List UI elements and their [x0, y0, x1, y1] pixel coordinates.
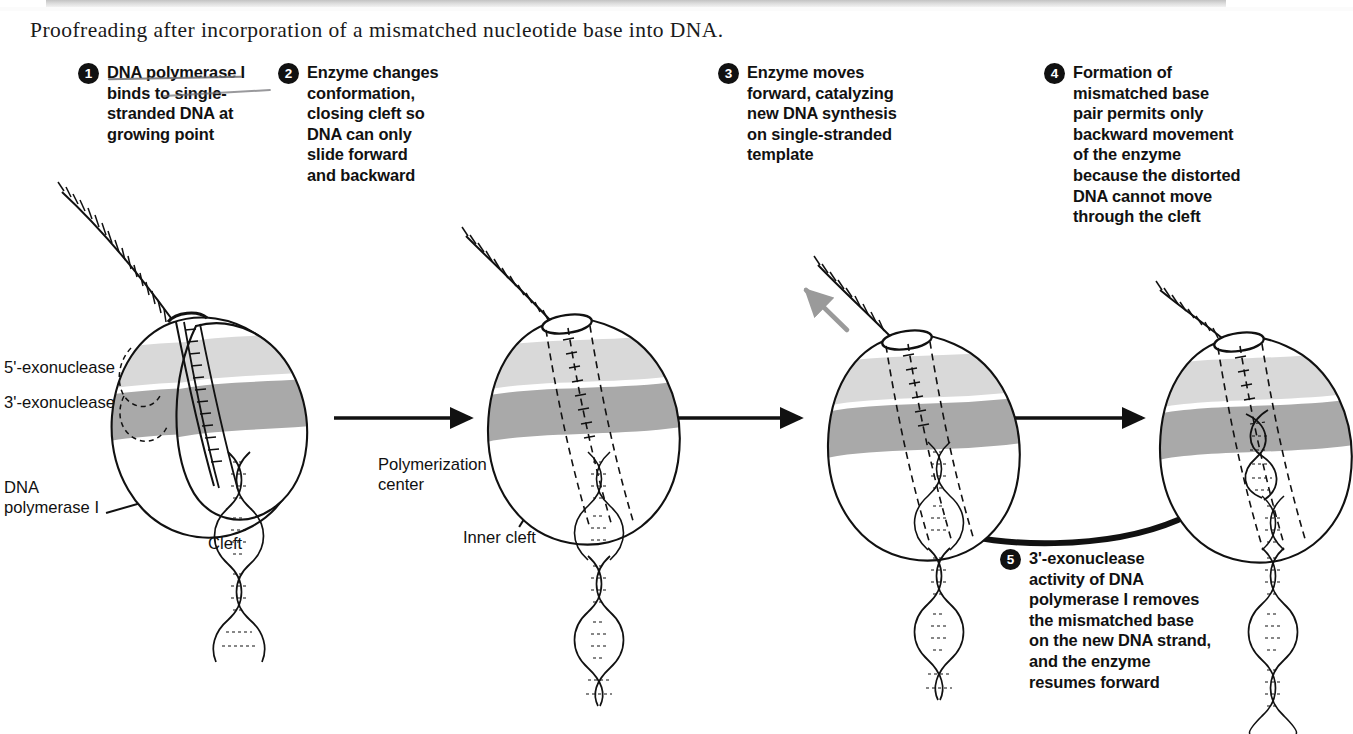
enzyme-bands-4 — [1150, 328, 1353, 578]
single-stranded-dna-3 — [814, 256, 890, 336]
movement-arrow-forward-gray — [806, 290, 847, 330]
single-stranded-dna-1 — [58, 182, 171, 322]
enzyme-figure-4 — [1150, 281, 1353, 734]
enzyme-figure-1 — [58, 182, 350, 662]
double-helix-2 — [575, 556, 624, 706]
enzyme-figure-3 — [814, 256, 1040, 700]
figure-page: Proofreading after incorporation of a mi… — [0, 0, 1353, 734]
single-stranded-dna-2 — [462, 227, 550, 320]
double-helix-3 — [915, 548, 964, 700]
enzyme-figure-2 — [462, 227, 700, 706]
diagram-artwork — [0, 0, 1353, 734]
double-helix-4 — [1249, 548, 1298, 734]
single-stranded-dna-4 — [1156, 281, 1222, 338]
